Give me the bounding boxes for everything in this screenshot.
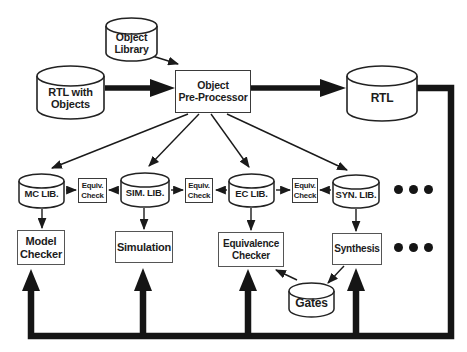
thick-arrowhead-into-rtl — [320, 79, 346, 97]
thick-feedback-loop-line — [31, 88, 451, 336]
synthesis-label: Synthesis — [334, 243, 379, 254]
arrow-preprocessor-to-sim-lib — [149, 114, 199, 166]
object-pre-processor-node: Object Pre-Processor — [175, 70, 251, 113]
dot-icon — [424, 185, 433, 194]
object-library-label: Object Library — [105, 17, 158, 62]
sim-lib-label: SIM. LIB. — [120, 172, 170, 208]
equiv-check-1-label: Equiv. Check — [81, 181, 103, 200]
diagram-canvas: Object Library RTL with Objects Object P… — [0, 0, 467, 352]
simulation-label: Simulation — [117, 241, 171, 253]
model-checker-node: Model Checker — [17, 230, 65, 265]
rtl-with-objects-label: RTL with Objects — [36, 65, 105, 120]
equiv-check-2-node: Equiv. Check — [185, 178, 213, 203]
ec-lib-node: EC LIB. — [228, 173, 275, 208]
gates-node: Gates — [288, 282, 335, 318]
equivalence-checker-label: Equivalence Checker — [223, 238, 279, 260]
equivalence-checker-node: Equivalence Checker — [218, 232, 284, 267]
rtl-with-objects-node: RTL with Objects — [36, 65, 105, 120]
synthesis-node: Synthesis — [332, 233, 382, 265]
model-checker-label: Model Checker — [20, 235, 62, 260]
syn-lib-label: SYN. LIB. — [332, 174, 380, 209]
arrow-gates-to-equivalence-checker — [276, 270, 297, 280]
dot-icon — [394, 185, 403, 194]
arrow-synthesis-to-gates — [328, 266, 344, 283]
thick-arrowhead-into-synthesis — [347, 268, 365, 291]
mc-lib-label: MC LIB. — [18, 173, 65, 209]
dot-icon — [394, 243, 403, 252]
arrow-preprocessor-to-syn-lib — [227, 114, 347, 170]
equiv-check-3-label: Equiv. Check — [294, 181, 316, 200]
object-pre-processor-label: Object Pre-Processor — [178, 80, 247, 104]
thick-arrowhead-into-equivalence-checker — [239, 269, 257, 291]
mc-lib-node: MC LIB. — [18, 173, 65, 209]
ec-lib-label: EC LIB. — [228, 173, 275, 208]
gates-label: Gates — [288, 282, 335, 318]
ellipsis-icon — [394, 243, 433, 252]
rtl-label: RTL — [346, 65, 418, 122]
equiv-check-3-node: Equiv. Check — [292, 178, 318, 203]
object-library-node: Object Library — [105, 17, 158, 62]
sim-lib-node: SIM. LIB. — [120, 172, 170, 208]
arrow-preprocessor-to-ec-lib — [211, 114, 249, 167]
dot-icon — [424, 243, 433, 252]
thick-arrowhead-into-preprocessor — [150, 79, 175, 97]
thick-arrowhead-into-model-checker — [22, 269, 40, 291]
dot-icon — [409, 185, 418, 194]
simulation-node: Simulation — [115, 231, 173, 263]
thick-arrowhead-into-simulation — [134, 268, 152, 291]
equiv-check-1-node: Equiv. Check — [78, 178, 107, 203]
dot-icon — [409, 243, 418, 252]
syn-lib-node: SYN. LIB. — [332, 174, 380, 209]
equiv-check-2-label: Equiv. Check — [188, 181, 210, 200]
ellipsis-icon — [394, 185, 433, 194]
rtl-node: RTL — [346, 65, 418, 122]
arrow-preprocessor-to-mc-lib — [52, 114, 188, 168]
